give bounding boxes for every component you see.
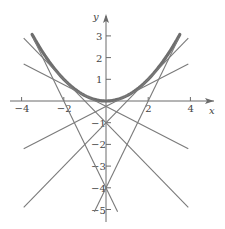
plot-area: xy−4−224321−1−2−3−4−5	[0, 0, 225, 229]
x-axis-label: x	[209, 105, 215, 116]
y-tick-label: 1	[96, 74, 102, 85]
y-tick-label: −5	[91, 205, 106, 216]
chart: xy−4−224321−1−2−3−4−5	[0, 0, 225, 229]
y-tick-label: −2	[91, 139, 106, 150]
x-tick-label: −4	[15, 103, 30, 114]
y-axis-label: y	[92, 11, 99, 22]
tangent-line	[94, 38, 178, 212]
y-tick-label: 2	[96, 53, 102, 64]
y-tick-label: −1	[91, 118, 106, 129]
y-tick-label: 3	[96, 31, 102, 42]
x-tick-label: 4	[187, 103, 193, 114]
